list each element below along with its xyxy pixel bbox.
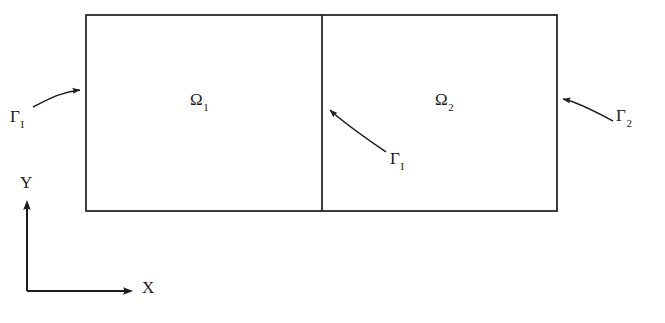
omega-1-label: Ω1 <box>190 91 209 111</box>
gamma-2-right-symbol: Γ <box>616 106 626 125</box>
omega-1-subscript: 1 <box>203 101 209 113</box>
figure-canvas: ΓI ΓI Γ2 Ω1 Ω2 Y X <box>0 0 665 323</box>
diagram-vector-layer <box>0 0 665 323</box>
gamma-I-left-label: ΓI <box>10 108 24 128</box>
arrow-gamma-I-middle <box>330 110 386 152</box>
arrow-gamma-2-right <box>563 99 613 121</box>
gamma-I-middle-subscript: I <box>401 160 405 172</box>
axis-x-label: X <box>142 279 154 296</box>
arrow-gamma-I-left <box>33 90 80 107</box>
gamma-I-middle-label: ΓI <box>390 150 404 170</box>
axis-y-label: Y <box>20 174 32 191</box>
gamma-I-left-symbol: Γ <box>10 107 20 126</box>
gamma-2-right-label: Γ2 <box>616 107 632 127</box>
omega-2-subscript: 2 <box>448 101 454 113</box>
gamma-2-right-subscript: 2 <box>627 117 633 129</box>
omega-1-symbol: Ω <box>190 90 203 109</box>
omega-2-symbol: Ω <box>435 90 448 109</box>
gamma-I-left-subscript: I <box>21 118 25 130</box>
gamma-I-middle-symbol: Γ <box>390 149 400 168</box>
omega-2-label: Ω2 <box>435 91 454 111</box>
